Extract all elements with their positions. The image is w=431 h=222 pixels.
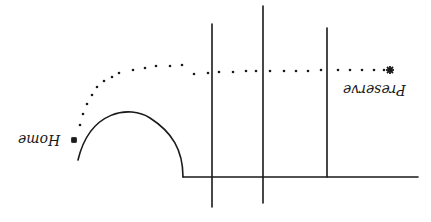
dotted-route — [79, 64, 386, 127]
arch-curve — [78, 112, 183, 177]
asterisk-icon-preserve — [386, 66, 394, 74]
label-preserve: Preserve — [343, 82, 406, 98]
label-home: Home — [18, 132, 60, 148]
route-diagram — [0, 0, 431, 222]
asterisk-icon-home — [71, 137, 77, 143]
